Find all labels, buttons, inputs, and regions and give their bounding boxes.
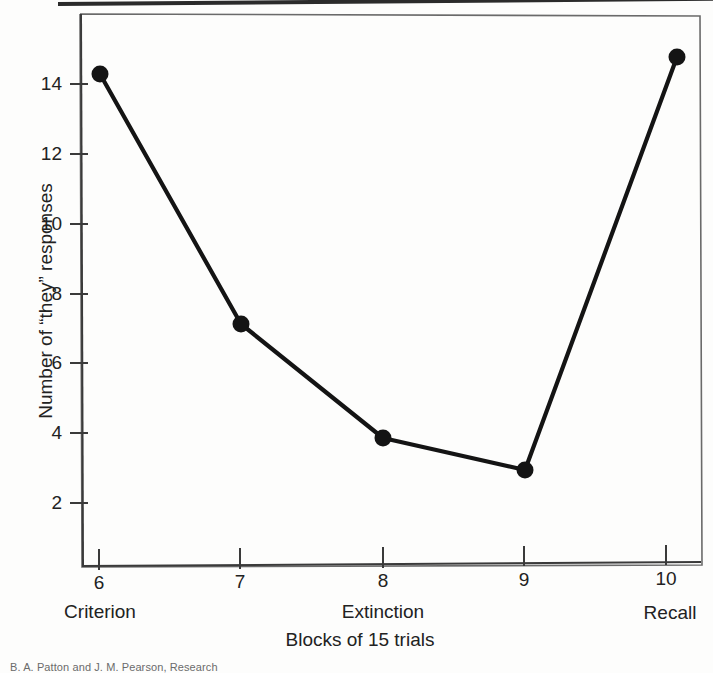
data-point (375, 430, 392, 447)
y-axis-ticks (70, 84, 88, 503)
data-point (233, 316, 250, 333)
data-line (100, 57, 677, 470)
phase-label-extinction: Extinction (313, 601, 453, 623)
x-tick-label-8: 8 (358, 570, 408, 592)
chart-plot-area: 14 12 10 8 6 4 2 6 7 8 9 10 Criterion Ex… (0, 0, 713, 673)
x-axis-title: Blocks of 15 trials (200, 629, 520, 651)
plot-frame (80, 14, 702, 567)
x-tick-label-7: 7 (215, 571, 265, 593)
y-axis-title: Number of “they” responses (35, 131, 57, 471)
figure-caption: B. A. Patton and J. M. Pearson, Research (10, 661, 700, 673)
data-point (92, 66, 109, 83)
data-point (669, 49, 686, 66)
x-tick-label-9: 9 (499, 569, 549, 591)
y-tick-label-14: 14 (22, 73, 62, 95)
data-point (517, 462, 534, 479)
data-markers (92, 49, 686, 479)
x-tick-label-6: 6 (74, 572, 124, 594)
y-tick-label-2: 2 (22, 492, 62, 514)
phase-label-recall: Recall (600, 602, 713, 624)
phase-label-criterion: Criterion (30, 601, 170, 623)
x-tick-label-10: 10 (641, 568, 691, 590)
figure-panel: 14 12 10 8 6 4 2 6 7 8 9 10 Criterion Ex… (0, 0, 713, 673)
